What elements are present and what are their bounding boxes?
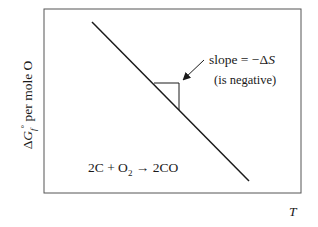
diagram: ΔGf° per mole O T slope = −ΔS (is negati…: [0, 0, 318, 227]
g-superscript: °: [19, 125, 29, 129]
y-axis-label-rest: per mole O: [20, 61, 35, 125]
slope-annotation-prefix: slope = −Δ: [209, 52, 268, 67]
y-axis-label: ΔGf° per mole O: [21, 61, 35, 150]
reaction-part1: 2C + O: [88, 160, 128, 175]
reaction-equation: 2C + O2 → 2CO: [88, 161, 178, 175]
delta-g-line: [92, 22, 249, 181]
reaction-part2: → 2CO: [132, 160, 178, 175]
slope-annotation: slope = −ΔS: [209, 53, 275, 67]
entropy-symbol: S: [268, 52, 275, 67]
x-axis-label: T: [289, 205, 297, 219]
slope-sign-note: (is negative): [214, 74, 276, 87]
diagram-graphics: [0, 0, 318, 227]
delta-symbol: Δ: [20, 141, 35, 150]
g-symbol: G: [20, 131, 35, 141]
annotation-arrow: [184, 60, 204, 79]
g-subscript: f: [28, 128, 38, 131]
